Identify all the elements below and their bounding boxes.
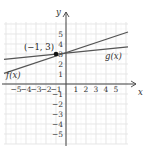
svg-text:2: 2	[58, 60, 63, 69]
svg-text:5: 5	[58, 30, 63, 39]
x-axis-label: x	[138, 87, 143, 97]
f-label: f(x)	[5, 70, 21, 80]
y-axis-label: y	[55, 7, 61, 17]
intersection-point	[54, 52, 59, 57]
chart-svg: −5−4−3−2−112345−5−4−3−2−112345 x y f(x) …	[0, 0, 148, 147]
svg-text:−1: −1	[52, 90, 63, 99]
svg-text:4: 4	[104, 85, 109, 94]
svg-text:−5: −5	[52, 130, 63, 139]
svg-text:2: 2	[84, 85, 89, 94]
svg-text:5: 5	[114, 85, 119, 94]
svg-text:−3: −3	[52, 110, 63, 119]
svg-text:1: 1	[74, 85, 79, 94]
svg-text:4: 4	[58, 40, 63, 49]
svg-text:1: 1	[58, 70, 63, 79]
svg-text:−2: −2	[52, 100, 63, 109]
g-label: g(x)	[105, 51, 122, 61]
point-label: (−1, 3)	[24, 42, 54, 52]
svg-text:3: 3	[94, 85, 99, 94]
svg-text:−4: −4	[52, 120, 63, 129]
